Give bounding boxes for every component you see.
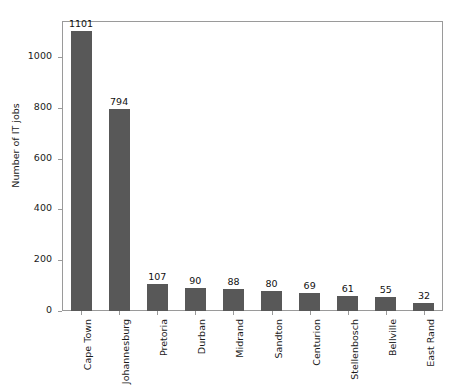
bar-value-label: 90 — [175, 275, 216, 286]
bar-group[interactable]: 80 — [261, 21, 282, 311]
bar[interactable] — [223, 289, 244, 311]
bar-group[interactable]: 1101 — [71, 21, 92, 311]
y-tick-label: 0 — [46, 304, 52, 315]
y-axis-label-text: Number of IT jobs — [10, 103, 21, 187]
y-tick-mark — [58, 260, 62, 261]
bar-group[interactable]: 107 — [147, 21, 168, 311]
x-tick-label-text: Midrand — [233, 319, 247, 358]
bar[interactable] — [413, 303, 434, 311]
x-tick-label: Midrand — [226, 319, 240, 389]
bar-group[interactable]: 794 — [109, 21, 130, 311]
x-tick-mark — [81, 311, 82, 315]
x-tick-mark — [272, 311, 273, 315]
x-tick-label: East Rand — [417, 319, 431, 389]
bar-value-label: 80 — [251, 278, 292, 289]
x-tick-label-text: Sandton — [272, 319, 286, 358]
x-tick-label-text: Pretoria — [157, 319, 171, 356]
x-tick-label: Sandton — [265, 319, 279, 389]
bar-value-label: 107 — [137, 271, 178, 282]
x-tick-label: Johannesburg — [112, 319, 126, 389]
bar[interactable] — [71, 31, 92, 311]
x-tick-label: Cape Town — [74, 319, 88, 389]
bar-group[interactable]: 90 — [185, 21, 206, 311]
bar-group[interactable]: 61 — [337, 21, 358, 311]
x-tick-mark — [119, 311, 120, 315]
bar-value-label: 32 — [403, 290, 444, 301]
bar-value-label: 1101 — [61, 18, 102, 29]
bar[interactable] — [109, 109, 130, 311]
x-tick-label-text: Cape Town — [81, 319, 95, 370]
y-tick-label: 1000 — [28, 50, 52, 61]
bar[interactable] — [337, 296, 358, 311]
x-tick-label: Bellville — [379, 319, 393, 389]
x-tick-mark — [157, 311, 158, 315]
x-tick-label-text: East Rand — [424, 319, 438, 367]
x-tick-label-text: Johannesburg — [119, 319, 133, 384]
bar-group[interactable]: 32 — [413, 21, 434, 311]
bar-value-label: 88 — [213, 276, 254, 287]
x-tick-mark — [424, 311, 425, 315]
y-tick-label: 800 — [34, 101, 52, 112]
y-tick-mark — [58, 311, 62, 312]
bar-chart-figure: Number of IT jobs 02004006008001000 1101… — [0, 0, 463, 391]
x-tick-mark — [195, 311, 196, 315]
y-axis-label: Number of IT jobs — [5, 0, 25, 290]
bar-value-label: 69 — [289, 280, 330, 291]
x-tick-label-text: Centurion — [310, 319, 324, 366]
y-tick-label: 400 — [34, 202, 52, 213]
x-tick-label: Centurion — [303, 319, 317, 389]
x-tick-mark — [310, 311, 311, 315]
bar[interactable] — [375, 297, 396, 311]
bar[interactable] — [147, 284, 168, 311]
y-tick-mark — [58, 57, 62, 58]
x-tick-mark — [386, 311, 387, 315]
bar-value-label: 794 — [99, 96, 140, 107]
y-tick-label: 600 — [34, 152, 52, 163]
x-tick-label-text: Stellenbosch — [348, 319, 362, 380]
y-tick-label: 200 — [34, 253, 52, 264]
x-tick-label: Pretoria — [150, 319, 164, 389]
y-tick-mark — [58, 159, 62, 160]
x-tick-label: Stellenbosch — [341, 319, 355, 389]
bar[interactable] — [185, 288, 206, 311]
bar-value-label: 61 — [327, 283, 368, 294]
bar-group[interactable]: 55 — [375, 21, 396, 311]
y-tick-mark — [58, 108, 62, 109]
x-tick-label-text: Bellville — [386, 319, 400, 356]
bar-value-label: 55 — [365, 284, 406, 295]
bar-group[interactable]: 69 — [299, 21, 320, 311]
x-tick-mark — [348, 311, 349, 315]
x-tick-mark — [233, 311, 234, 315]
x-tick-label-text: Durban — [195, 319, 209, 354]
y-tick-mark — [58, 209, 62, 210]
bar[interactable] — [299, 293, 320, 311]
bar[interactable] — [261, 291, 282, 311]
bar-group[interactable]: 88 — [223, 21, 244, 311]
x-tick-label: Durban — [188, 319, 202, 389]
